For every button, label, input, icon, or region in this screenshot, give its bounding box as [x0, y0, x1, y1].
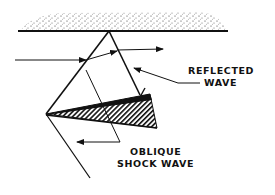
- oblique-shock-line: [46, 31, 109, 114]
- outgoing-flow-arrow: [117, 49, 163, 50]
- oblique-shock-label-1: OBLIQUE: [130, 146, 181, 157]
- reflected-wave-label-1: REFLECTED: [188, 65, 254, 76]
- lower-shock-line: [46, 114, 90, 178]
- oblique-shock-label-2: SHOCK WAVE: [117, 158, 194, 169]
- wall-stipple: [20, 12, 226, 31]
- reflected-wave-line: [109, 31, 140, 95]
- reflected-wave-label-2: WAVE: [204, 77, 237, 88]
- shock-wave-diagram: REFLECTED WAVE OBLIQUE SHOCK WAVE: [0, 0, 275, 195]
